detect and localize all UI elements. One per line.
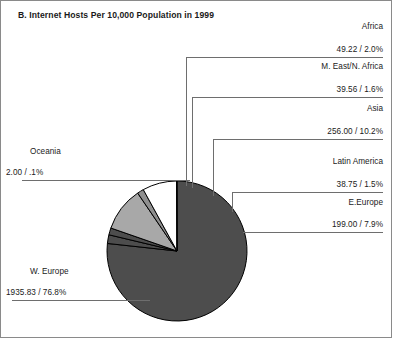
label-asia-value: 256.00 / 10.2% (327, 127, 383, 136)
label-weurope-value: 1935.83 / 76.8% (6, 288, 66, 297)
label-eeurope-name: E.Europe (349, 198, 383, 207)
label-meast-value: 39.56 / 1.6% (337, 85, 383, 94)
label-eeurope-value: 199.00 / 7.9% (332, 220, 383, 229)
label-meast-name: M. East/N. Africa (321, 62, 383, 71)
pie-chart-figure: B. Internet Hosts Per 10,000 Population … (0, 0, 393, 339)
label-asia-name: Asia (367, 104, 383, 113)
label-oceania-name: Oceania (30, 147, 61, 156)
label-weurope-name: W. Europe (30, 267, 69, 276)
label-latin-name: Latin America (333, 157, 383, 166)
label-africa-value: 49.22 / 2.0% (337, 45, 383, 54)
label-latin-value: 38.75 / 1.5% (337, 180, 383, 189)
label-oceania-value: 2.00 / .1% (6, 168, 43, 177)
label-africa-name: Africa (362, 22, 383, 31)
